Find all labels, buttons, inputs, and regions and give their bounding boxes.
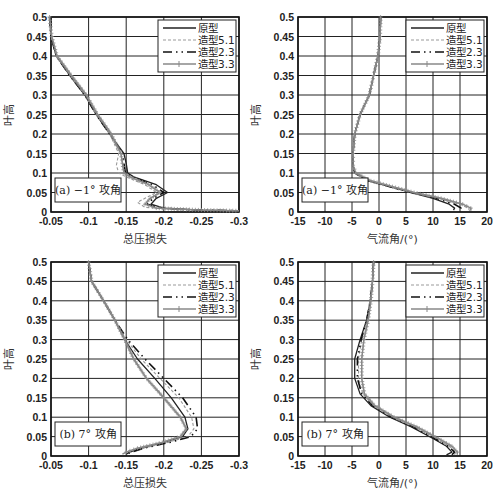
y-tick-label: 0.2 <box>279 372 294 384</box>
plus-marker <box>373 67 377 71</box>
y-tick-label: 0.35 <box>274 314 295 326</box>
plus-marker <box>119 155 123 159</box>
plus-marker <box>360 376 364 380</box>
x-axis-label: 总压损失 <box>123 232 167 246</box>
y-tick-label: 0 <box>41 450 47 462</box>
x-tick-label: -0.25 <box>189 459 213 471</box>
x-tick-label: -0.1 <box>80 459 98 471</box>
y-tick-label: 0.3 <box>279 334 294 346</box>
panel-annotation: (b) 7° 攻角 <box>302 422 368 446</box>
legend-label-3: 造型2.3 <box>446 46 483 58</box>
x-tick-label: 20 <box>481 459 493 471</box>
legend-label-4: 造型3.3 <box>446 58 483 70</box>
x-tick-label: -10 <box>317 215 332 227</box>
x-tick-label: 15 <box>454 459 466 471</box>
y-axis-label: 叶高 <box>249 348 263 370</box>
y-tick-label: 0.05 <box>274 431 295 443</box>
x-tick-label: 15 <box>454 215 466 227</box>
x-tick-label: -0.3 <box>230 215 248 227</box>
y-tick-label: 0 <box>288 450 294 462</box>
y-tick-label: 0 <box>288 206 294 218</box>
y-tick-label: 0.15 <box>274 392 295 404</box>
x-tick-label: 10 <box>427 459 439 471</box>
panel-annotation: (a) −1° 攻角 <box>302 178 368 202</box>
y-tick-label: 0.15 <box>274 148 295 160</box>
plus-marker <box>355 122 359 126</box>
y-axis-label: 叶高 <box>2 104 16 126</box>
x-tick-label: -0.3 <box>230 459 248 471</box>
x-tick-label: -5 <box>347 215 356 227</box>
x-tick-label: -10 <box>317 459 332 471</box>
y-tick-label: 0.4 <box>32 295 47 307</box>
y-tick-label: 0.1 <box>32 411 47 423</box>
legend-label-4: 造型3.3 <box>198 303 235 315</box>
legend-label-2: 造型5.1 <box>446 34 483 46</box>
y-tick-label: 0.45 <box>274 31 295 43</box>
legend-label-4: 造型3.3 <box>198 58 235 70</box>
x-axis-label: 总压损失 <box>123 476 167 490</box>
panel-annotation: (a) −1° 攻角 <box>55 178 121 202</box>
y-tick-label: 0.15 <box>27 392 48 404</box>
y-tick-label: 0.45 <box>27 31 48 43</box>
x-tick-label: -5 <box>347 459 356 471</box>
y-tick-label: 0.05 <box>27 431 48 443</box>
annotation-text: (b) 7° 攻角 <box>306 427 363 441</box>
legend-label-3: 造型2.3 <box>198 291 235 303</box>
x-tick-label: -0.15 <box>114 459 138 471</box>
y-tick-label: 0.25 <box>274 353 295 365</box>
y-tick-label: 0.1 <box>32 167 47 179</box>
x-axis-label: 气流角/(°) <box>367 476 418 490</box>
legend: 原型造型5.1造型2.3造型3.3 <box>406 265 484 317</box>
y-tick-label: 0.45 <box>27 275 48 287</box>
legend-label-2: 造型5.1 <box>198 34 235 46</box>
plus-marker <box>87 260 91 264</box>
legend-label-4: 造型3.3 <box>446 303 483 315</box>
plus-marker <box>361 383 365 387</box>
plus-marker <box>87 263 91 267</box>
plus-marker <box>354 129 358 133</box>
chart-b-loss: -0.05-0.1-0.15-0.2-0.25-0.300.050.10.150… <box>2 256 248 490</box>
legend: 原型造型5.1造型2.3造型3.3 <box>158 20 236 72</box>
y-tick-label: 0.3 <box>32 334 47 346</box>
y-axis-label: 叶高 <box>249 104 263 126</box>
plus-marker <box>374 64 378 68</box>
plus-marker <box>89 273 93 277</box>
x-tick-label: 0 <box>376 459 382 471</box>
y-tick-label: 0.4 <box>279 295 294 307</box>
x-tick-label: 10 <box>427 215 439 227</box>
y-tick-label: 0.5 <box>279 256 294 268</box>
plus-marker <box>368 90 372 94</box>
y-tick-label: 0.4 <box>279 50 294 62</box>
annotation-text: (a) −1° 攻角 <box>55 183 121 197</box>
y-tick-label: 0.3 <box>32 89 47 101</box>
x-axis-label: 气流角/(°) <box>367 232 418 246</box>
y-tick-label: 0.35 <box>274 70 295 82</box>
y-tick-label: 0.25 <box>274 109 295 121</box>
x-tick-label: 5 <box>403 459 409 471</box>
y-tick-label: 0.25 <box>27 109 48 121</box>
plus-marker <box>445 198 449 202</box>
legend-label-1: 原型 <box>198 267 218 279</box>
y-tick-label: 0.2 <box>32 372 47 384</box>
legend-label-2: 造型5.1 <box>446 279 483 291</box>
plus-marker <box>89 276 93 280</box>
legend-label-1: 原型 <box>198 22 218 34</box>
chart-b-angle: -15-10-50510152000.050.10.150.20.250.30.… <box>249 256 493 490</box>
y-tick-label: 0.3 <box>279 89 294 101</box>
plus-marker <box>370 80 374 84</box>
x-tick-label: 5 <box>403 215 409 227</box>
y-tick-label: 0.2 <box>279 128 294 140</box>
y-axis-label: 叶高 <box>2 348 16 370</box>
plus-marker <box>371 77 375 81</box>
x-tick-label: -0.25 <box>189 215 213 227</box>
x-tick-label: -0.1 <box>80 215 98 227</box>
plus-marker <box>372 74 376 78</box>
plus-marker <box>369 87 373 91</box>
y-tick-label: 0 <box>41 206 47 218</box>
legend-label-3: 造型2.3 <box>446 291 483 303</box>
legend-label-3: 造型2.3 <box>198 46 235 58</box>
plus-marker <box>361 386 365 390</box>
y-tick-label: 0.35 <box>27 314 48 326</box>
x-tick-label: 20 <box>481 215 493 227</box>
x-tick-label: -0.15 <box>114 215 138 227</box>
